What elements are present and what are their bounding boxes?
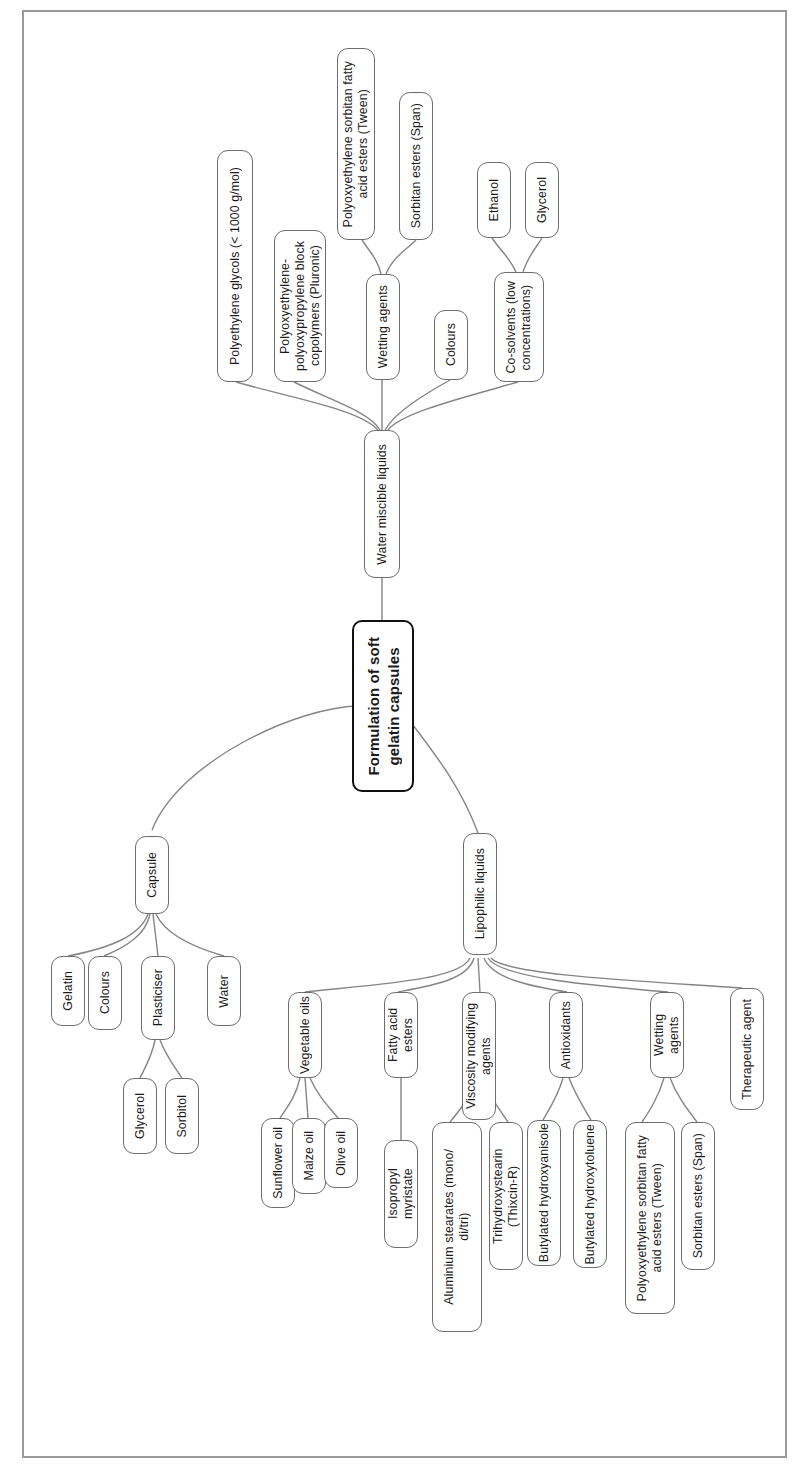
node-co-solvents-label: Co-solvents (low concentrations) xyxy=(504,279,534,376)
node-maize-oil-label: Maize oil xyxy=(302,1129,317,1182)
node-vegetable-oils[interactable]: Vegetable oils xyxy=(288,992,322,1078)
node-gelatin[interactable]: Gelatin xyxy=(51,956,85,1026)
node-butylated-hydroxytoluene[interactable]: Butylated hydroxytoluene xyxy=(573,1120,607,1268)
edge-lip-fattyesters xyxy=(398,958,474,992)
edge-root-capsule xyxy=(152,706,360,830)
node-olive-oil[interactable]: Olive oil xyxy=(324,1118,358,1188)
node-wm-span[interactable]: Sorbitan esters (Span) xyxy=(399,92,433,240)
node-pluronic-copolymers-label: Polyoxyethylene- polyoxypropylene block … xyxy=(278,239,323,373)
edge-cap-water xyxy=(156,914,224,956)
node-wm-colours[interactable]: Colours xyxy=(434,310,468,380)
node-fatty-acid-esters-label: Fatty acid esters xyxy=(386,993,416,1077)
node-maize-oil[interactable]: Maize oil xyxy=(292,1118,326,1194)
edge-veg-maize xyxy=(305,1078,308,1118)
node-root-label: Formulation of soft gelatin capsules xyxy=(364,635,403,778)
edge-wm-pluronic xyxy=(294,382,380,430)
node-pluronic-copolymers[interactable]: Polyoxyethylene- polyoxypropylene block … xyxy=(274,230,326,382)
edge-cosolv-glycerol xyxy=(523,238,542,272)
node-therapeutic-agent[interactable]: Therapeutic agent xyxy=(730,988,764,1110)
node-polyethylene-glycols[interactable]: Polyethylene glycols (< 1000 g/mol) xyxy=(217,150,253,382)
node-sorbitol[interactable]: Sorbitol xyxy=(165,1078,199,1154)
node-root[interactable]: Formulation of soft gelatin capsules xyxy=(352,620,414,792)
node-wm-tween-label: Polyoxyethylene sorbitan fatty acid este… xyxy=(341,59,371,229)
node-glycerol-cosolvent-label: Glycerol xyxy=(535,175,550,225)
node-water[interactable]: Water xyxy=(207,956,241,1026)
node-isopropyl-myristate[interactable]: Isopropyl myristate xyxy=(384,1140,418,1248)
node-water-miscible-liquids-label: Water miscible liquids xyxy=(375,442,390,567)
edge-cap-colours xyxy=(104,914,150,956)
node-plasticiser-label: Plasticiser xyxy=(151,967,166,1028)
node-capsule-colours[interactable]: Colours xyxy=(88,956,122,1030)
edge-plast-sorbitol xyxy=(160,1040,182,1078)
edge-lip-therapeutic xyxy=(491,958,742,988)
node-lip-tween-label: Polyoxyethylene sorbitan fatty acid este… xyxy=(635,1133,665,1303)
node-antioxidants[interactable]: Antioxidants xyxy=(549,992,583,1078)
edge-plast-glycerol xyxy=(140,1040,155,1078)
node-therapeutic-agent-label: Therapeutic agent xyxy=(740,997,755,1102)
edge-cosolv-ethanol xyxy=(492,238,516,272)
edge-cap-gelatin xyxy=(68,914,148,956)
node-lip-span-label: Sorbitan esters (Span) xyxy=(691,1131,706,1260)
node-wm-tween[interactable]: Polyoxyethylene sorbitan fatty acid este… xyxy=(337,48,375,240)
node-butylated-hydroxytoluene-label: Butylated hydroxytoluene xyxy=(583,1122,598,1267)
edge-wm-peg xyxy=(236,382,378,430)
edge-wmwet-span xyxy=(386,240,416,274)
edge-veg-olive xyxy=(310,1078,338,1118)
node-lip-wetting-agents-label: Wetting agents xyxy=(652,993,682,1077)
node-aluminium-stearates-label: Aluminium stearates (mono/ di/tri) xyxy=(442,1147,472,1307)
edge-lip-wetting xyxy=(488,958,668,992)
edge-lip-viscosity xyxy=(478,958,480,992)
node-glycerol-plasticiser-label: Glycerol xyxy=(133,1091,148,1141)
node-ethanol-label: Ethanol xyxy=(487,177,502,223)
node-vegetable-oils-label: Vegetable oils xyxy=(298,994,313,1076)
diagram-canvas: Formulation of soft gelatin capsules Wat… xyxy=(0,0,800,1483)
edge-veg-sunflower xyxy=(280,1078,300,1118)
node-gelatin-label: Gelatin xyxy=(61,969,76,1013)
node-lipophilic-liquids[interactable]: Lipophilic liquids xyxy=(463,833,497,955)
node-trihydroxystearin[interactable]: Trihydroxystearin (Thixcin-R) xyxy=(489,1122,523,1270)
node-isopropyl-myristate-label: Isopropyl myristate xyxy=(386,1141,416,1247)
node-trihydroxystearin-label: Trihydroxystearin (Thixcin-R) xyxy=(491,1123,521,1269)
node-viscosity-modifying-agents-label: Viscosity modifying agents xyxy=(464,993,494,1119)
node-glycerol-cosolvent[interactable]: Glycerol xyxy=(525,162,559,238)
edge-anti-bht xyxy=(569,1078,591,1120)
node-water-label: Water xyxy=(217,973,232,1010)
edge-anti-bha xyxy=(543,1078,563,1120)
node-lipophilic-liquids-label: Lipophilic liquids xyxy=(473,846,488,941)
node-aluminium-stearates[interactable]: Aluminium stearates (mono/ di/tri) xyxy=(432,1122,482,1332)
node-sunflower-oil[interactable]: Sunflower oil xyxy=(261,1118,295,1208)
edge-lipwet-tween xyxy=(642,1078,664,1122)
node-plasticiser[interactable]: Plasticiser xyxy=(141,956,175,1040)
node-fatty-acid-esters[interactable]: Fatty acid esters xyxy=(384,992,418,1078)
node-capsule-label: Capsule xyxy=(145,850,160,900)
edge-root-lipophilic xyxy=(406,716,478,833)
node-viscosity-modifying-agents[interactable]: Viscosity modifying agents xyxy=(462,992,496,1120)
node-wm-colours-label: Colours xyxy=(444,321,459,368)
node-sunflower-oil-label: Sunflower oil xyxy=(271,1125,286,1201)
node-capsule[interactable]: Capsule xyxy=(135,836,169,914)
edge-wm-cosolvents xyxy=(388,382,518,430)
edge-lip-antioxidants xyxy=(484,958,567,992)
node-lip-tween[interactable]: Polyoxyethylene sorbitan fatty acid este… xyxy=(625,1122,675,1314)
edge-wmwet-tween xyxy=(362,240,381,274)
edge-cap-plasticiser xyxy=(153,914,158,956)
edge-lipwet-span xyxy=(670,1078,697,1122)
node-water-miscible-liquids[interactable]: Water miscible liquids xyxy=(364,430,400,578)
node-sorbitol-label: Sorbitol xyxy=(175,1093,190,1140)
edge-wm-colours xyxy=(385,380,450,430)
node-capsule-colours-label: Colours xyxy=(98,969,113,1016)
node-polyethylene-glycols-label: Polyethylene glycols (< 1000 g/mol) xyxy=(228,165,243,367)
node-wm-wetting-agents[interactable]: Wetting agents xyxy=(366,274,400,380)
edge-lip-vegoils xyxy=(305,958,470,992)
node-antioxidants-label: Antioxidants xyxy=(559,999,574,1071)
node-glycerol-plasticiser[interactable]: Glycerol xyxy=(123,1078,157,1154)
node-butylated-hydroxyanisole[interactable]: Butylated hydroxyanisole xyxy=(527,1120,561,1266)
node-wm-wetting-agents-label: Wetting agents xyxy=(376,283,391,370)
node-lip-span[interactable]: Sorbitan esters (Span) xyxy=(681,1122,715,1270)
node-olive-oil-label: Olive oil xyxy=(334,1129,349,1178)
node-wm-span-label: Sorbitan esters (Span) xyxy=(409,101,424,230)
node-lip-wetting-agents[interactable]: Wetting agents xyxy=(650,992,684,1078)
node-butylated-hydroxyanisole-label: Butylated hydroxyanisole xyxy=(537,1121,552,1264)
node-co-solvents[interactable]: Co-solvents (low concentrations) xyxy=(494,272,544,382)
node-ethanol[interactable]: Ethanol xyxy=(477,162,511,238)
